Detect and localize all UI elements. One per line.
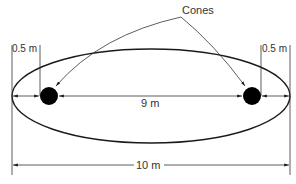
callout-label: Cones <box>182 5 214 16</box>
right-offset-label: 0.5 m <box>262 43 287 54</box>
callout-leader-left <box>56 17 181 86</box>
left-offset-label: 0.5 m <box>12 43 37 54</box>
inner-distance-label: 9 m <box>141 98 159 109</box>
total-distance-label: 10 m <box>136 160 160 171</box>
left-cone <box>40 87 58 105</box>
cone-course-diagram <box>0 0 296 184</box>
right-cone <box>243 87 261 105</box>
